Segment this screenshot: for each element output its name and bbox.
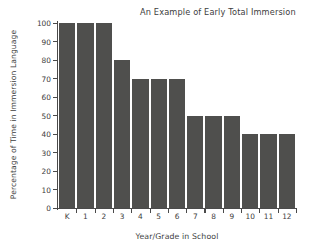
x-axis-tick-label: 11 <box>264 212 273 221</box>
x-axis-tick <box>113 208 114 213</box>
x-axis-tick <box>223 208 224 213</box>
bar <box>205 116 221 209</box>
x-axis-tick <box>296 208 297 213</box>
x-axis-tick <box>168 208 169 213</box>
bar <box>59 23 75 208</box>
x-axis-tick-label: 7 <box>193 212 198 221</box>
x-axis-tick <box>76 208 77 213</box>
bar-chart: An Example of Early Total Immersion Perc… <box>0 0 316 251</box>
bar <box>77 23 93 208</box>
x-axis-tick <box>278 208 279 213</box>
x-axis-tick-label: 4 <box>138 212 143 221</box>
x-axis-tick-label: 6 <box>175 212 180 221</box>
bar <box>260 134 276 208</box>
bar <box>279 134 295 208</box>
x-axis-tick <box>204 208 205 213</box>
x-axis-title: Year/Grade in School <box>58 232 296 241</box>
x-axis-tick-label: 9 <box>230 212 235 221</box>
x-axis-tick-label: 5 <box>156 212 161 221</box>
x-axis-tick-label: 2 <box>101 212 106 221</box>
bar <box>151 79 167 209</box>
x-axis-tick <box>241 208 242 213</box>
x-axis-tick <box>186 208 187 213</box>
bar <box>187 116 203 209</box>
x-axis-tick-label: 1 <box>83 212 88 221</box>
x-axis-tick-label: 12 <box>282 212 291 221</box>
bar <box>224 116 240 209</box>
x-axis-tick-label: 8 <box>211 212 216 221</box>
bar <box>96 23 112 208</box>
bar <box>114 60 130 208</box>
plot-area <box>58 23 296 208</box>
x-axis-tick <box>259 208 260 213</box>
bar <box>132 79 148 209</box>
x-axis-tick <box>95 208 96 213</box>
x-axis-tick-label: K <box>65 212 70 221</box>
x-axis-tick-label: 3 <box>120 212 125 221</box>
x-axis-tick-label: 10 <box>246 212 255 221</box>
x-axis-tick <box>150 208 151 213</box>
bar <box>169 79 185 209</box>
x-axis-tick <box>131 208 132 213</box>
bar <box>242 134 258 208</box>
